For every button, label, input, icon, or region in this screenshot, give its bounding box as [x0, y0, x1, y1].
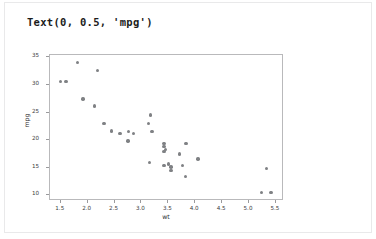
x-tick-mark	[194, 200, 195, 203]
x-tick-mark	[275, 200, 276, 203]
y-tick-mark	[46, 84, 49, 85]
x-tick-label: 2.0	[75, 206, 99, 212]
x-tick-mark	[87, 200, 88, 203]
y-tick-label: 30	[13, 81, 39, 87]
x-tick-label: 2.5	[102, 206, 126, 212]
y-tick-label: 15	[13, 164, 39, 170]
y-axis-label: mpg	[23, 109, 30, 133]
x-tick-label: 5.5	[263, 206, 287, 212]
y-tick-mark	[46, 112, 49, 113]
y-tick-label: 20	[13, 136, 39, 142]
y-tick-mark	[46, 56, 49, 57]
text-repr-output: Text(0, 0.5, 'mpg')	[27, 16, 153, 28]
x-tick-label: 5.0	[236, 206, 260, 212]
x-tick-label: 3.0	[128, 206, 152, 212]
x-axis-label: wt	[49, 213, 283, 220]
y-tick-mark	[46, 167, 49, 168]
notebook-output-cell: Text(0, 0.5, 'mpg') 101520253035 1.52.02…	[4, 2, 372, 233]
matplotlib-figure: 101520253035 1.52.02.53.03.54.04.55.05.5…	[5, 39, 373, 234]
x-tick-mark	[221, 200, 222, 203]
plot-axes-frame	[49, 54, 283, 200]
x-tick-label: 4.5	[209, 206, 233, 212]
x-tick-label: 3.5	[155, 206, 179, 212]
y-tick-mark	[46, 194, 49, 195]
x-tick-label: 1.5	[48, 206, 72, 212]
y-tick-label: 35	[13, 53, 39, 59]
x-tick-mark	[140, 200, 141, 203]
x-tick-mark	[167, 200, 168, 203]
x-tick-label: 4.0	[182, 206, 206, 212]
x-tick-mark	[60, 200, 61, 203]
x-tick-mark	[248, 200, 249, 203]
y-tick-mark	[46, 139, 49, 140]
x-tick-mark	[114, 200, 115, 203]
y-tick-label: 10	[13, 191, 39, 197]
